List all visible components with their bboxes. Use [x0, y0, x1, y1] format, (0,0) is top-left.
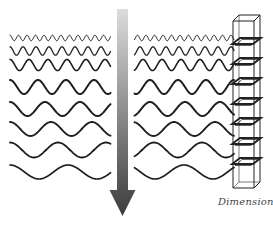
wave-line: [10, 60, 111, 71]
wave-line: [10, 80, 111, 94]
down-arrow-icon: [110, 9, 136, 216]
wave-line: [10, 143, 111, 158]
wave-line: [10, 102, 111, 116]
wave-line: [135, 122, 235, 136]
wave-line: [10, 47, 111, 55]
dimensions-label: Dimensions: [218, 196, 273, 207]
wave-line: [135, 165, 235, 179]
wave-line: [135, 143, 235, 158]
wave-line: [135, 102, 235, 116]
wave-line: [10, 122, 111, 136]
wave-line: [135, 35, 235, 41]
wave-line: [10, 35, 111, 41]
wave-line: [135, 60, 235, 71]
wave-line: [10, 165, 111, 179]
dimension-tower-icon: [232, 15, 261, 188]
dimensions-diagram: [0, 0, 273, 225]
wave-line: [135, 80, 235, 94]
wave-line: [135, 47, 235, 55]
